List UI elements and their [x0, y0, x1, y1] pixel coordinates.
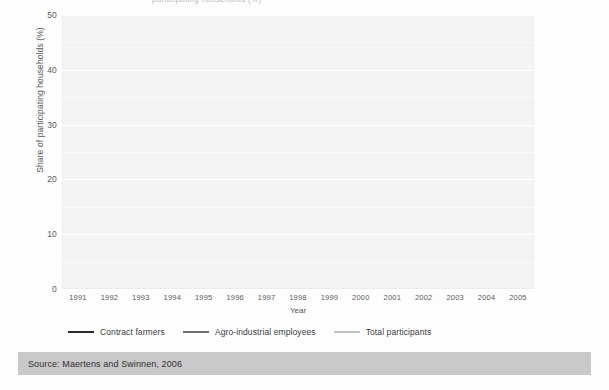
legend-swatch: [334, 331, 360, 333]
y-tick-label: 0: [17, 284, 57, 294]
y-tick-label: 10: [17, 229, 57, 239]
y-axis-ticks: 01020304050: [12, 15, 57, 289]
y-tick-label: 40: [17, 65, 57, 75]
gridline-major: [62, 234, 534, 235]
y-tick-label: 50: [17, 10, 57, 20]
gridline-major: [62, 15, 534, 16]
gridline-major: [62, 179, 534, 180]
legend-item[interactable]: Total participants: [334, 327, 432, 337]
legend-item[interactable]: Agro-industrial employees: [183, 327, 316, 337]
legend-label: Contract farmers: [100, 327, 165, 337]
x-axis-ticks: 1991199219931994199519961997199819992000…: [62, 293, 534, 307]
source-text: Source: Maertens and Swinnen, 2006: [18, 359, 182, 369]
y-tick-label: 30: [17, 120, 57, 130]
gridline-minor: [62, 152, 534, 153]
clipped-top-text: participating households (%): [0, 0, 609, 7]
legend-swatch: [68, 331, 94, 333]
source-bar: Source: Maertens and Swinnen, 2006: [18, 352, 591, 375]
gridline-minor: [62, 262, 534, 263]
chart-figure: participating households (%) Share of pa…: [0, 0, 609, 390]
gridline-minor: [62, 207, 534, 208]
chart-legend: Contract farmersAgro-industrial employee…: [62, 324, 534, 340]
plot-area: [62, 15, 534, 289]
gridline-major: [62, 125, 534, 126]
gridline-major: [62, 289, 534, 290]
legend-swatch: [183, 331, 209, 333]
gridline-major: [62, 70, 534, 71]
y-tick-label: 20: [17, 174, 57, 184]
legend-label: Total participants: [366, 327, 432, 337]
gridline-minor: [62, 42, 534, 43]
gridline-minor: [62, 97, 534, 98]
legend-item[interactable]: Contract farmers: [68, 327, 165, 337]
legend-label: Agro-industrial employees: [215, 327, 316, 337]
x-tick-label: 2005: [498, 293, 538, 302]
x-axis-label: Year: [62, 306, 534, 315]
